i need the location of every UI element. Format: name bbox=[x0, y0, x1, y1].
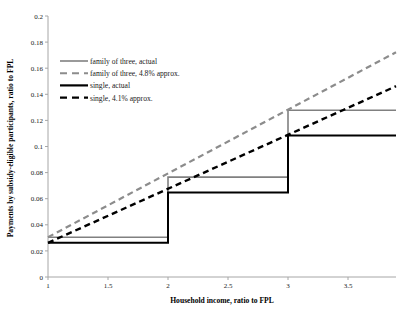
y-tick-label: 0 bbox=[40, 274, 44, 282]
legend-label: single, 4.1% approx. bbox=[90, 94, 153, 103]
legend-label: single, actual bbox=[90, 81, 130, 90]
x-tick-label: 3.5 bbox=[344, 282, 353, 290]
y-tick-label: 0.2 bbox=[34, 13, 43, 21]
y-tick-label: 0.06 bbox=[31, 195, 44, 203]
x-tick-label: 2 bbox=[166, 282, 170, 290]
chart-canvas: 00.020.040.060.080.10.120.140.160.180.2 … bbox=[0, 0, 412, 310]
y-tick-label: 0.14 bbox=[31, 91, 44, 99]
x-tick-label: 2.5 bbox=[224, 282, 233, 290]
y-tick-label: 0.18 bbox=[31, 39, 44, 47]
y-tick-label: 0.02 bbox=[31, 248, 44, 256]
x-tick-label: 1.5 bbox=[104, 282, 113, 290]
y-tick-label: 0.16 bbox=[31, 65, 44, 73]
legend-label: family of three, actual bbox=[90, 57, 157, 66]
chart-background bbox=[0, 0, 412, 310]
chart-figure: 00.020.040.060.080.10.120.140.160.180.2 … bbox=[0, 0, 412, 310]
y-axis-title: Payments by subsidy-eligible participant… bbox=[6, 59, 15, 238]
y-tick-label: 0.1 bbox=[34, 143, 43, 151]
x-tick-label: 1 bbox=[46, 282, 50, 290]
x-axis-title: Household income, ratio to FPL bbox=[170, 296, 274, 305]
y-tick-label: 0.04 bbox=[31, 221, 44, 229]
x-tick-label: 3 bbox=[286, 282, 290, 290]
y-tick-label: 0.08 bbox=[31, 169, 44, 177]
legend-label: family of three, 4.8% approx. bbox=[90, 69, 180, 78]
y-tick-label: 0.12 bbox=[31, 117, 44, 125]
